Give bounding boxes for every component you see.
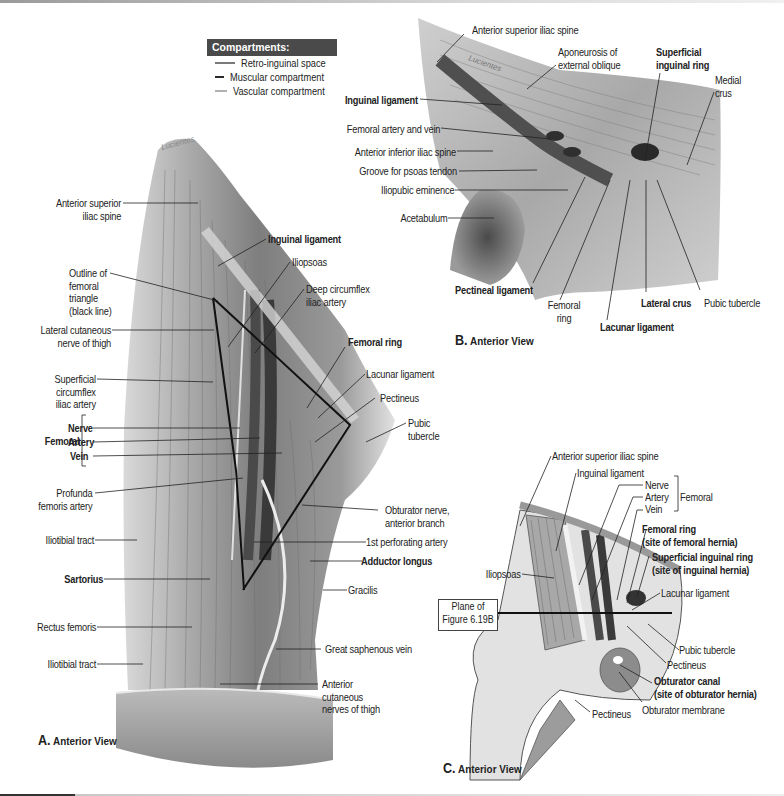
label-iliopubic-eminence: Iliopubic eminence [381,184,454,197]
label-lacunar-ligament-b: Lacunar ligament [600,321,674,334]
label-femoral-vein: Vein [70,450,88,463]
legend-item-muscular: Muscular compartment [215,70,337,84]
label-groove-psoas-tendon: Groove for psoas tendon [359,165,457,178]
label-pubic-tubercle-a: Pubictubercle [408,417,439,442]
label-1st-perforating-artery: 1st perforating artery [366,536,447,549]
legend-title: Compartments: [207,39,337,56]
compartments-legend: Compartments: Retro-inguinal space Muscu… [207,39,337,101]
label-lacunar-ligament-a: Lacunar ligament [366,368,434,381]
label-rectus-femoris: Rectus femoris [37,621,96,634]
label-obturator-membrane: Obturator membrane [642,704,725,717]
label-pectineus-c-upper: Pectineus [667,659,706,672]
label-femoral-nerve: Nerve [68,422,93,435]
label-vein-c: Vein [645,503,662,516]
panel-a-caption: A. Anterior View [38,732,117,748]
plane-of-figure-box: Plane of Figure 6.19B [438,599,498,631]
label-iliotibial-tract-upper: Iliotibial tract [45,534,94,547]
label-femoral-group-c: Femoral [680,491,713,504]
label-artery-c: Artery [645,491,669,504]
legend-item-retro-inguinal: Retro-inguinal space [215,56,337,70]
label-superficial-circumflex-iliac-artery: Superficialcircumflexiliac artery [55,373,96,411]
panel-b-caption: B. Anterior View [455,332,534,348]
label-lacunar-ligament-c: Lacunar ligament [661,587,729,600]
label-inguinal-ligament-a: Inguinal ligament [268,233,341,246]
label-asis-c: Anterior superior iliac spine [552,450,658,463]
label-iliopsoas-a: Iliopsoas [292,256,327,269]
label-sartorius: Sartorius [64,573,103,586]
label-femoral-artery-vein: Femoral artery and vein [346,123,440,136]
label-inguinal-ligament-b: Inguinal ligament [345,94,418,107]
label-pubic-tubercle-c: Pubic tubercle [679,644,735,657]
label-acetabulum: Acetabulum [400,212,447,225]
label-adductor-longus: Adductor longus [361,555,432,568]
label-superficial-inguinal-ring-c: Superficial inguinal ring(site of inguin… [652,551,753,576]
label-lateral-cutaneous-nerve: Lateral cutaneousnerve of thigh [41,324,111,349]
panel-a-thigh-illustration: Lucientes [116,134,395,767]
label-deep-circumflex-iliac-artery: Deep circumflexiliac artery [306,283,370,308]
label-anterior-inferior-iliac-spine: Anterior inferior iliac spine [355,146,456,159]
panel-c-caption: C. Anterior View [443,760,522,776]
label-femoral-ring-b: Femoralring [546,299,581,324]
label-profunda-femoris-artery: Profundafemoris artery [38,487,92,512]
label-obturator-canal: Obturator canal(site of obturator hernia… [654,675,757,700]
swatch-icon [215,62,235,65]
label-inguinal-ligament-c: Inguinal ligament [577,467,644,480]
label-pectineus-a: Pectineus [380,392,419,405]
label-nerve-c: Nerve [645,479,669,492]
label-anterior-cutaneous-nerves: Anteriorcutaneousnerves of thigh [322,678,380,716]
label-iliotibial-tract-lower: Iliotibial tract [47,658,96,671]
label-pectineal-ligament: Pectineal ligament [455,284,533,297]
label-pubic-tubercle-b: Pubic tubercle [704,297,760,310]
label-iliopsoas-c: Iliopsoas [486,568,521,581]
swatch-icon [215,76,224,79]
label-superficial-inguinal-ring-b: Superficialinguinal ring [656,46,709,71]
label-femoral-ring-a: Femoral ring [348,336,402,349]
label-great-saphenous-vein: Great saphenous vein [325,643,412,656]
label-femoral-artery: Artery [68,436,94,449]
label-medial-crus: Medialcrus [715,74,741,99]
label-femoral-ring-c: Femoral ring(site of femoral hernia) [642,523,737,548]
label-aponeurosis-external-oblique: Aponeurosis ofexternal oblique [558,46,620,71]
label-gracilis: Gracilis [348,584,377,597]
label-pectineus-c-lower: Pectineus [592,708,631,721]
label-asis-b: Anterior superior iliac spine [472,24,578,37]
swatch-icon [215,90,227,93]
label-lateral-crus: Lateral crus [641,297,691,310]
label-asis-a: Anterior superioriliac spine [56,197,121,222]
label-obturator-nerve-anterior-branch: Obturator nerve,anterior branch [385,504,449,529]
legend-item-vascular: Vascular compartment [215,84,337,98]
label-femoral-triangle-outline: Outline offemoraltriangle(black line) [69,267,112,317]
